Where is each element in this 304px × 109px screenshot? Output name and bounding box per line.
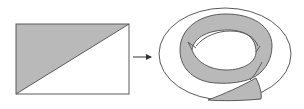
diagram bbox=[0, 0, 304, 109]
diagram-canvas bbox=[0, 0, 304, 109]
torus bbox=[159, 8, 291, 101]
flat-rectangle bbox=[16, 24, 129, 94]
